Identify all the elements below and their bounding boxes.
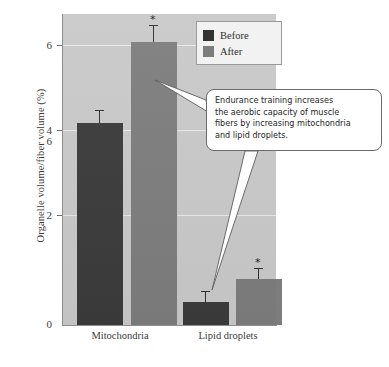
y-tick-label-6: 6 — [30, 39, 52, 51]
legend-label-after: After — [220, 46, 242, 57]
errorbar-cap-mitochondria-before — [95, 110, 104, 111]
chart-legend: Before After — [196, 21, 282, 65]
legend-swatch-before-icon — [203, 30, 214, 41]
x-axis-label-lipid-droplets: Lipid droplets — [178, 330, 278, 341]
y-tick-label-0: 0 — [30, 318, 52, 330]
callout-line-3: fibers by increasing mitochondria — [215, 118, 374, 130]
errorbar-lipid-droplets-after — [258, 269, 259, 279]
errorbar-mitochondria-after — [153, 26, 154, 42]
bar-mitochondria-before — [77, 123, 123, 325]
y-tick-label-2: 2 — [30, 209, 52, 221]
bar-lipid-droplets-before — [183, 302, 229, 325]
y-axis-title: Organelle volume/fiber volume (%) — [35, 41, 46, 291]
x-axis-label-mitochondria: Mitochondria — [70, 330, 170, 341]
callout-line-2: the aerobic capacity of muscle — [215, 107, 374, 119]
errorbar-mitochondria-before — [99, 111, 100, 123]
legend-item-before: Before — [203, 27, 275, 43]
callout-line-4: and lipid droplets. — [215, 130, 374, 142]
legend-item-after: After — [203, 43, 275, 59]
callout-line-1: Endurance training increases — [215, 95, 374, 107]
errorbar-lipid-droplets-before — [205, 292, 206, 302]
x-axis-line — [62, 325, 277, 326]
y-axis-line — [62, 14, 63, 326]
legend-swatch-after-icon — [203, 46, 214, 57]
y-tick-label-4: 4 — [30, 124, 52, 136]
bar-lipid-droplets-after — [236, 279, 282, 325]
errorbar-cap-lipid-droplets-before — [201, 291, 210, 292]
y-tick-label-6: 6 — [28, 135, 52, 147]
significance-asterisk-mitochondria-after: * — [150, 17, 156, 23]
significance-asterisk-lipid-droplets-after: * — [255, 260, 261, 266]
bar-mitochondria-after — [131, 42, 177, 325]
legend-label-before: Before — [220, 30, 249, 41]
chart-figure: Organelle volume/fiber volume (%) 6 6 4 … — [0, 0, 389, 367]
annotation-callout: Endurance training increases the aerobic… — [206, 89, 382, 151]
